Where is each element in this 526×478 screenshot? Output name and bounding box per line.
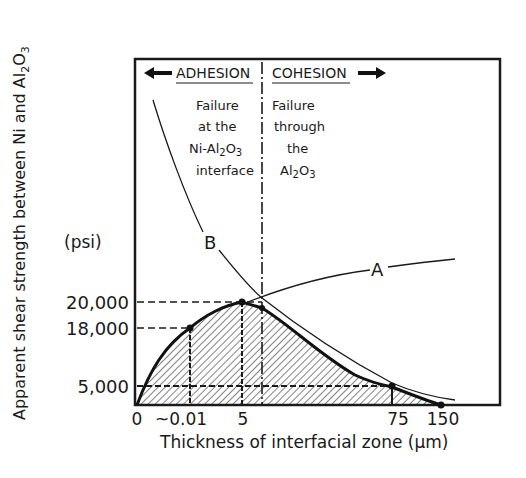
x-axis-title: Thickness of interfacial zone (μm) — [159, 432, 448, 452]
left-desc-3: Ni-Al2O3 — [189, 141, 242, 158]
right-desc-3: the — [287, 141, 308, 156]
x-tick-75: 75 — [387, 409, 409, 429]
curve-a-label: A — [371, 259, 384, 280]
y-tick-5000: 5,000 — [77, 376, 129, 397]
y-axis-title: Apparent shear strength between Ni and A… — [10, 46, 32, 420]
right-desc-4: Al2O3 — [280, 163, 316, 180]
left-desc-4: interface — [196, 163, 254, 178]
x-tick-0: 0 — [132, 409, 143, 429]
point-150 — [438, 402, 445, 409]
arrow-right-icon — [358, 67, 386, 79]
point-crossing — [259, 305, 265, 311]
left-desc-1: Failure — [196, 98, 239, 113]
point-75 — [389, 383, 396, 390]
left-desc-2: at the — [198, 119, 237, 134]
cohesion-header: COHESION — [272, 65, 347, 81]
right-desc-1: Failure — [272, 98, 315, 113]
y-tick-20000: 20,000 — [66, 292, 129, 313]
point-5 — [239, 299, 246, 306]
curve-b-label: B — [204, 232, 216, 253]
shear-strength-chart: ADHESION COHESION Failure at the Ni-Al2O… — [0, 0, 526, 478]
x-tick-150: 150 — [427, 409, 459, 429]
right-desc-2: through — [274, 119, 325, 134]
x-tick-001: ~0.01 — [155, 409, 207, 429]
point-001 — [187, 325, 194, 332]
curve-a-right — [388, 259, 455, 267]
y-tick-18000: 18,000 — [66, 318, 129, 339]
arrow-left-icon — [144, 67, 172, 79]
x-tick-5: 5 — [238, 409, 249, 429]
adhesion-header: ADHESION — [176, 65, 250, 81]
y-unit-label: (psi) — [64, 232, 102, 252]
